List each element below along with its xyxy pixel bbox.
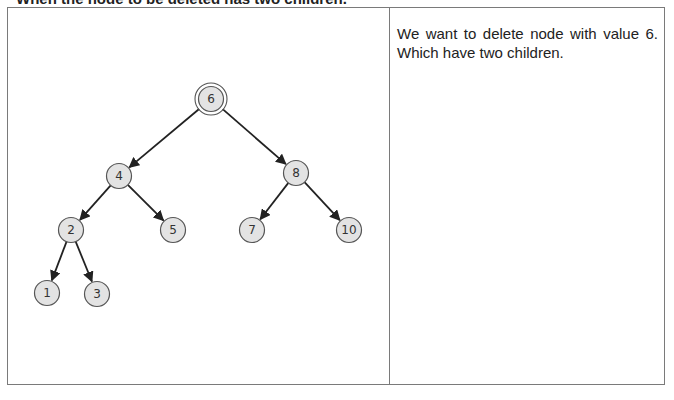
tree-node-5: 5 — [161, 218, 186, 243]
tree-node-3: 3 — [85, 282, 110, 307]
edge-4-to-5 — [128, 185, 164, 221]
tree-node-6: 6 — [195, 83, 227, 115]
tree-node-7: 7 — [240, 218, 265, 243]
node-value: 2 — [67, 223, 75, 237]
edge-4-to-2 — [80, 185, 111, 220]
description-text: We want to delete node with value 6. Whi… — [397, 24, 658, 62]
tree-node-1: 1 — [35, 281, 60, 306]
explanation-table: 6482571013 We want to delete node with v… — [7, 7, 665, 385]
edge-6-to-4 — [129, 109, 199, 167]
description-line-2: Which have two children. — [397, 43, 658, 62]
node-value: 4 — [115, 169, 123, 183]
node-value: 10 — [341, 223, 356, 237]
node-value: 3 — [93, 287, 101, 301]
tree-nodes: 6482571013 — [35, 83, 362, 307]
edge-8-to-7 — [260, 183, 288, 219]
tree-node-2: 2 — [59, 218, 84, 243]
tree-node-4: 4 — [107, 164, 132, 189]
node-value: 6 — [207, 92, 215, 106]
description-cell: We want to delete node with value 6. Whi… — [390, 8, 664, 384]
node-value: 1 — [43, 286, 51, 300]
tree-diagram-cell: 6482571013 — [8, 8, 390, 384]
edge-2-to-3 — [76, 242, 92, 282]
binary-search-tree-diagram: 6482571013 — [8, 8, 390, 384]
node-value: 8 — [292, 166, 300, 180]
node-value: 5 — [169, 223, 177, 237]
tree-node-10: 10 — [337, 218, 362, 243]
description-line-1: We want to delete node with value 6. — [397, 24, 658, 43]
section-heading: When the node to be deleted has two chil… — [16, 0, 347, 7]
tree-edges — [52, 109, 340, 282]
node-value: 7 — [248, 223, 256, 237]
tree-node-8: 8 — [284, 161, 309, 186]
edge-2-to-1 — [52, 242, 67, 281]
edge-8-to-10 — [305, 182, 340, 220]
edge-6-to-8 — [223, 109, 286, 164]
